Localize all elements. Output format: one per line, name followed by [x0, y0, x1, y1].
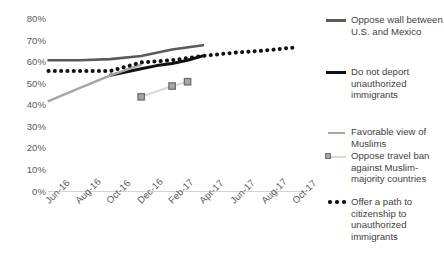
legend-line-dark-gray-icon	[326, 14, 348, 27]
x-axis-tick: Oct-16	[104, 177, 132, 205]
legend-dot	[335, 200, 339, 204]
legend-item[interactable]: Oppose wall between U.S. and Mexico	[326, 14, 443, 37]
y-axis-tick: 10%	[2, 165, 46, 175]
x-axis-tick: Dec-16	[135, 176, 165, 206]
legend-item-label: Favorable view of Muslims	[351, 126, 443, 149]
legend-item[interactable]: Do not deport unauthorized immigrants	[326, 66, 443, 101]
legend-item[interactable]: Offer a path to citizenship to unauthori…	[326, 196, 443, 242]
legend-dot	[328, 200, 332, 204]
y-axis-tick: 0%	[2, 187, 46, 197]
legend-dotted-line-icon	[326, 196, 348, 209]
legend-item-label: Oppose travel ban against Muslim-majorit…	[351, 150, 443, 185]
plot-area: Jun-16Aug-16Oct-16Dec-16Feb-17Apr-17Jun-…	[0, 0, 320, 260]
legend-square	[325, 153, 331, 159]
x-axis-tick: Oct-17	[290, 177, 318, 205]
legend-line-light-gray-icon	[326, 126, 348, 139]
x-axis-tick: Jun-16	[43, 177, 72, 206]
line-swatch	[328, 132, 345, 134]
x-axis-tick: Jun-17	[228, 177, 257, 206]
x-axis-labels: Jun-16Aug-16Oct-16Dec-16Feb-17Apr-17Jun-…	[0, 0, 320, 260]
legend-item[interactable]: Favorable view of Muslims	[326, 126, 443, 149]
y-axis-labels: 0%10%20%30%40%50%60%70%80%	[0, 0, 46, 260]
chart-legend: Oppose wall between U.S. and MexicoDo no…	[326, 0, 444, 260]
dotted-swatch	[327, 200, 348, 205]
chart-container: Jun-16Aug-16Oct-16Dec-16Feb-17Apr-17Jun-…	[0, 0, 444, 260]
y-axis-tick: 80%	[2, 14, 46, 24]
x-axis-tick: Apr-17	[197, 177, 225, 205]
legend-item-label: Offer a path to citizenship to unauthori…	[351, 196, 443, 242]
legend-item-label: Oppose wall between U.S. and Mexico	[351, 14, 443, 37]
legend-square-marker-icon	[326, 150, 348, 163]
legend-item-label: Do not deport unauthorized immigrants	[351, 66, 443, 101]
legend-line-black-icon	[326, 66, 348, 79]
x-axis-tick: Aug-17	[259, 176, 289, 206]
y-axis-tick: 40%	[2, 100, 46, 110]
line-swatch	[326, 19, 346, 22]
y-axis-tick: 30%	[2, 122, 46, 132]
line-swatch	[326, 71, 346, 74]
square-marker-swatch	[326, 156, 346, 158]
legend-item[interactable]: Oppose travel ban against Muslim-majorit…	[326, 150, 443, 185]
y-axis-tick: 70%	[2, 36, 46, 46]
x-axis-tick: Feb-17	[166, 176, 195, 205]
y-axis-tick: 50%	[2, 79, 46, 89]
legend-dot	[342, 200, 346, 204]
x-axis-tick: Aug-16	[73, 176, 103, 206]
y-axis-tick: 20%	[2, 143, 46, 153]
y-axis-tick: 60%	[2, 57, 46, 67]
